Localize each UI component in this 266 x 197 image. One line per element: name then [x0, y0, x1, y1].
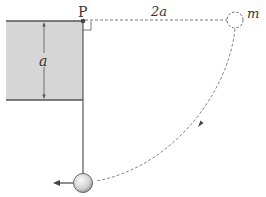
block-height-label: a: [39, 54, 47, 68]
initial-mass-dashed: [227, 12, 243, 28]
distance-label: 2a: [151, 5, 167, 18]
mass-label: m: [247, 7, 259, 20]
velocity-arrow: [53, 180, 74, 186]
pendulum-diagram: [0, 0, 266, 197]
direction-arrowhead-icon: [198, 121, 204, 128]
ball: [74, 174, 93, 193]
trajectory-arc: [96, 29, 235, 181]
pivot-label: P: [78, 5, 87, 19]
